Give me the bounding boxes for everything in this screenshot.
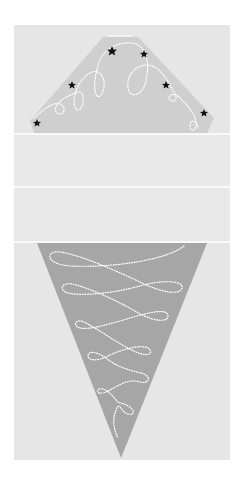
ice-cream-illustration: [0, 0, 245, 481]
ice-cream-template: [0, 0, 245, 481]
blank-band-1: [14, 135, 230, 187]
blank-band-2: [14, 188, 230, 242]
